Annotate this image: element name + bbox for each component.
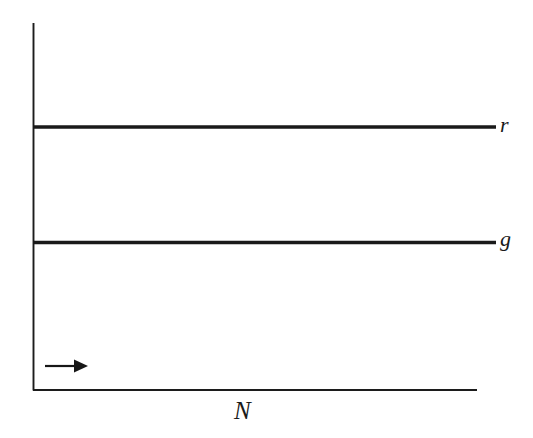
series-label-g: g	[500, 228, 511, 250]
figure-container: r g N	[0, 0, 533, 438]
line-chart-canvas	[0, 0, 533, 438]
series-label-r: r	[500, 114, 509, 136]
x-axis-label: N	[234, 398, 251, 423]
chart-background	[0, 0, 533, 438]
